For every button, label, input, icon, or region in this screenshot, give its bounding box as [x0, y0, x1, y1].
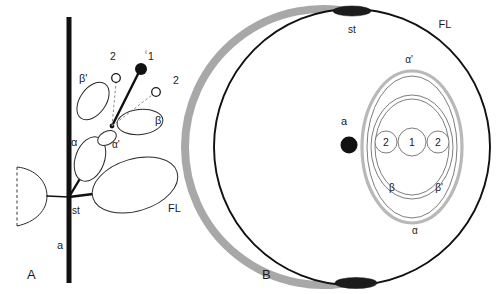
- label-b-flower-two-left: 2: [383, 136, 389, 148]
- panel-b-label: B: [262, 267, 271, 282]
- bract-organ: [17, 167, 47, 226]
- label-b-axis: a: [341, 115, 348, 127]
- label-a-order-one: 1: [148, 50, 154, 62]
- label-b-beta: β: [389, 182, 395, 193]
- label-a-stem-node: st: [72, 205, 80, 216]
- label-b-alpha-prime: α': [405, 54, 413, 65]
- panel-b: a st FL α' α β β' 2 1 2 B: [185, 6, 490, 289]
- label-b-floral-leaf: FL: [439, 18, 452, 30]
- label-a-alpha: α: [71, 136, 78, 148]
- panel-a: a st FL α α' β β' 2 1 2 A: [17, 17, 185, 283]
- label-b-flower-two-right: 2: [435, 136, 441, 148]
- stem-node-lens-top: [333, 6, 371, 16]
- figure-canvas: a st FL α α' β β' 2 1 2 A: [0, 0, 498, 294]
- flower-two-right-marker: [152, 88, 161, 97]
- label-a-order-two-right: 2: [173, 74, 179, 86]
- label-a-beta-prime: β': [79, 72, 87, 84]
- label-b-stem-node: st: [348, 24, 356, 35]
- label-b-alpha: α: [412, 225, 418, 236]
- label-a-beta: β: [155, 114, 161, 126]
- label-a-order-two-left: 2: [110, 50, 116, 62]
- node-lens-bottom: [335, 278, 377, 289]
- label-a-axis: a: [57, 239, 64, 251]
- label-a-floral-leaf: FL: [168, 202, 181, 214]
- label-b-beta-prime: β': [435, 182, 443, 193]
- figure-root: a st FL α α' β β' 2 1 2 A: [0, 0, 498, 294]
- flower-two-left-marker: [112, 74, 121, 83]
- label-a-alpha-prime: α': [112, 139, 120, 150]
- label-b-flower-one: 1: [409, 136, 415, 148]
- bract-stalk: [47, 196, 69, 197]
- axis-dot: [341, 137, 358, 154]
- panel-a-label: A: [27, 267, 36, 282]
- beta-prime-organ: [70, 76, 115, 125]
- floral-leaf-stalk: [69, 194, 93, 197]
- flower-one-marker: [135, 63, 147, 75]
